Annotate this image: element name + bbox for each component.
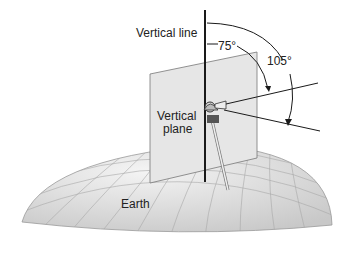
label-earth: Earth (121, 198, 150, 211)
vertical-angle-diagram: Vertical line 75° 105° Vertical plane Ea… (0, 0, 347, 253)
label-vertical-plane-line2: plane (163, 123, 192, 136)
label-angle-75: 75° (218, 40, 236, 53)
label-vertical-line: Vertical line (136, 27, 197, 40)
label-angle-105: 105° (267, 55, 292, 68)
